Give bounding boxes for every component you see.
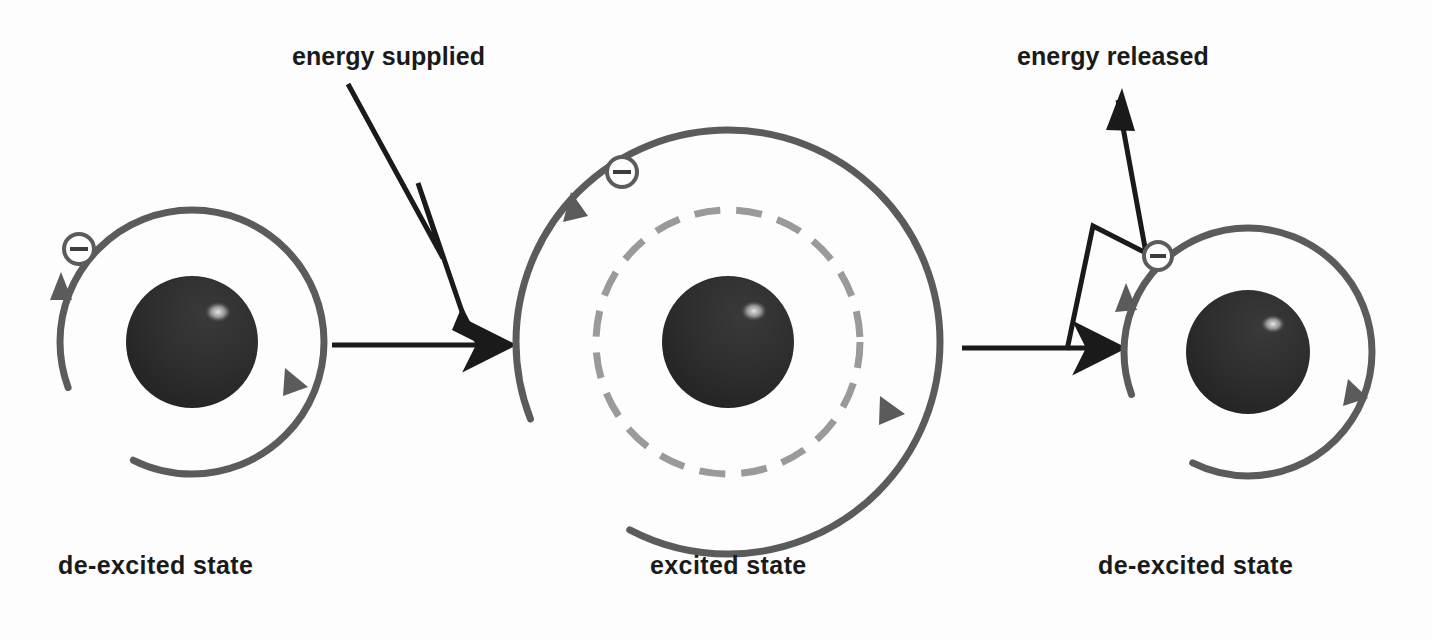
lightning-bolt-down-icon [348, 84, 482, 345]
electron-minus-icon [1144, 242, 1172, 270]
electron-minus-icon [607, 157, 637, 187]
atom-excitation-diagram [0, 0, 1432, 640]
nucleus-icon [126, 276, 258, 408]
energy-released-label: energy released [1017, 44, 1209, 69]
state-label-right: de-excited state [1098, 553, 1293, 578]
atom-middle [516, 130, 940, 554]
state-label-middle: excited state [650, 553, 807, 578]
atom-right [1115, 228, 1372, 476]
nucleus-highlight-icon [741, 301, 767, 321]
state-label-left: de-excited state [58, 553, 253, 578]
electron-minus-icon [64, 234, 94, 264]
nucleus-icon [662, 276, 794, 408]
nucleus-icon [1186, 290, 1310, 414]
orbit-direction-arrowhead-icon [283, 368, 308, 396]
atom-left [50, 210, 324, 474]
diagram-canvas: energy supplied energy released de-excit… [0, 0, 1432, 640]
nucleus-highlight-icon [1261, 315, 1285, 333]
nucleus-highlight-icon [205, 302, 231, 322]
orbit-direction-arrowhead-icon [879, 396, 905, 425]
energy-supplied-label: energy supplied [292, 44, 485, 69]
